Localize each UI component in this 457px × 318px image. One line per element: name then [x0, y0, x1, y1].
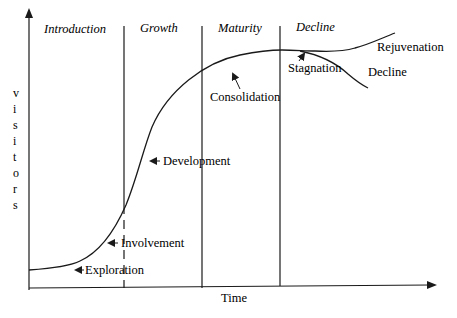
x-axis [29, 281, 437, 289]
stage-introduction: Introduction [43, 22, 106, 36]
label-development: Development [163, 154, 231, 168]
y-axis-arrow-icon [25, 8, 33, 18]
label-rejuvenation: Rejuvenation [377, 40, 444, 54]
svg-text:o: o [13, 166, 19, 180]
svg-text:i: i [13, 134, 17, 148]
label-consolidation: Consolidation [210, 90, 281, 104]
stage-decline: Decline [295, 20, 335, 34]
y-axis-label: v i s i t o r s [13, 86, 19, 212]
svg-text:v: v [13, 86, 19, 100]
svg-text:r: r [13, 182, 17, 196]
x-axis-label: Time [221, 291, 247, 305]
svg-text:i: i [13, 102, 17, 116]
svg-text:s: s [13, 118, 18, 132]
stage-growth: Growth [140, 21, 178, 35]
label-exploration: Exploration [85, 263, 145, 277]
arrow-consolidation-icon [233, 74, 240, 89]
lifecycle-diagram: Introduction Growth Maturity Decline Exp… [0, 0, 457, 318]
arrow-stagnation-icon [299, 54, 304, 61]
label-decline: Decline [368, 65, 407, 79]
stage-maturity: Maturity [217, 21, 262, 35]
svg-text:t: t [13, 150, 17, 164]
svg-text:s: s [13, 198, 18, 212]
y-axis [25, 8, 33, 290]
x-axis-arrow-icon [427, 281, 437, 289]
label-involvement: Involvement [121, 236, 185, 250]
label-stagnation: Stagnation [288, 61, 342, 75]
